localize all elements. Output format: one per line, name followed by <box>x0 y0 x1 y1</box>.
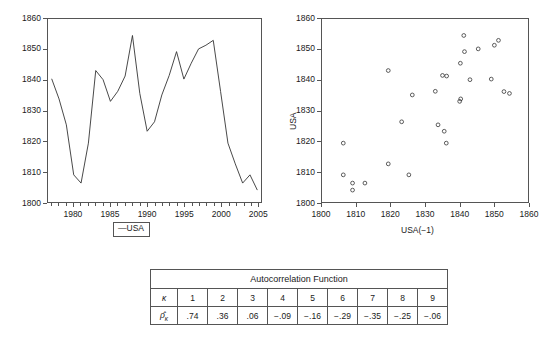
line-y-tick <box>43 18 47 19</box>
line-x-tick-minor <box>95 203 96 206</box>
scatter-point <box>351 181 355 185</box>
acf-lag-cell: 8 <box>388 289 418 307</box>
line-x-tick-minor <box>66 203 67 206</box>
scatter-x-tick <box>390 203 391 207</box>
scatter-y-tick <box>317 80 321 81</box>
legend-line-marker: — <box>118 223 127 233</box>
line-x-tick-label: 2000 <box>207 210 235 219</box>
line-x-tick-minor <box>244 203 245 206</box>
acf-value-cell: −.06 <box>418 307 448 325</box>
scatter-point <box>492 43 496 47</box>
acf-row-label-rho-hat: ρ̂κ <box>151 307 178 325</box>
scatter-x-tick <box>460 203 461 207</box>
scatter-y-tick <box>317 172 321 173</box>
line-y-tick <box>43 80 47 81</box>
acf-value-cell: −.29 <box>328 307 358 325</box>
acf-value-cell: −.16 <box>298 307 328 325</box>
line-y-tick-label: 1810 <box>0 168 41 177</box>
scatter-point <box>386 69 390 73</box>
scatter-point <box>489 77 493 81</box>
scatter-point <box>363 181 367 185</box>
line-x-tick-minor <box>117 203 118 206</box>
scatter-x-tick-label: 1810 <box>342 210 370 219</box>
line-x-tick-minor <box>58 203 59 206</box>
scatter-point <box>458 61 462 65</box>
scatter-x-tick-label: 1800 <box>307 210 335 219</box>
rho-hat-symbol: ρ̂ <box>160 310 165 320</box>
scatter-x-tick <box>494 203 495 207</box>
table-row-values: ρ̂κ .74.36.06−.09−.16−.29−.35−.25−.06 <box>151 307 448 325</box>
line-y-tick-label: 1850 <box>0 44 41 53</box>
acf-value-cell: .06 <box>238 307 268 325</box>
scatter-y-tick <box>317 111 321 112</box>
scatter-point <box>468 78 472 82</box>
line-x-tick-minor <box>214 203 215 206</box>
acf-lag-cell: 2 <box>208 289 238 307</box>
scatter-y-tick-label: 1800 <box>276 199 315 208</box>
scatter-y-tick-label: 1810 <box>276 168 315 177</box>
legend-label: USA <box>127 223 144 233</box>
scatter-points-svg <box>322 19 528 202</box>
scatter-x-tick-label: 1820 <box>376 210 404 219</box>
acf-value-cell: −.09 <box>268 307 298 325</box>
acf-lag-cell: 7 <box>358 289 388 307</box>
autocorrelation-function-table: Autocorrelation Function κ 123456789 ρ̂κ… <box>150 269 448 325</box>
acf-table: Autocorrelation Function κ 123456789 ρ̂κ… <box>150 269 448 325</box>
line-x-tick-major <box>184 203 185 207</box>
acf-lag-cell: 1 <box>178 289 208 307</box>
line-x-tick-minor <box>177 203 178 206</box>
acf-value-cell: −.25 <box>388 307 418 325</box>
acf-lag-cell: 9 <box>418 289 448 307</box>
line-y-tick-label: 1800 <box>0 199 41 208</box>
scatter-point <box>476 47 480 51</box>
rho-hat-subscript: κ <box>165 314 168 321</box>
line-y-tick-label: 1840 <box>0 75 41 84</box>
line-y-tick <box>43 111 47 112</box>
line-x-tick-minor <box>103 203 104 206</box>
line-x-tick-major <box>73 203 74 207</box>
line-x-tick-minor <box>206 203 207 206</box>
acf-row-label-kappa: κ <box>151 289 178 307</box>
scatter-x-tick <box>356 203 357 207</box>
scatter-point <box>462 34 466 38</box>
scatter-point <box>442 129 446 133</box>
scatter-point <box>445 74 449 78</box>
line-x-tick-minor <box>192 203 193 206</box>
acf-value-cell: .36 <box>208 307 238 325</box>
scatter-x-tick <box>321 203 322 207</box>
line-x-tick-minor <box>140 203 141 206</box>
line-x-tick-minor <box>251 203 252 206</box>
scatter-point <box>400 120 404 124</box>
scatter-point <box>497 38 501 42</box>
acf-lag-cell: 6 <box>328 289 358 307</box>
acf-lag-cell: 4 <box>268 289 298 307</box>
usa-time-series-chart: 1860185018401830182018101800 19801985199… <box>0 0 276 255</box>
scatter-y-tick-label: 1860 <box>276 14 315 23</box>
acf-value-cell: .74 <box>178 307 208 325</box>
line-y-tick <box>43 141 47 142</box>
scatter-x-tick-label: 1860 <box>515 210 543 219</box>
scatter-point <box>351 188 355 192</box>
scatter-point <box>410 93 414 97</box>
scatter-point <box>502 90 506 94</box>
scatter-y-tick <box>317 18 321 19</box>
acf-lag-cell: 3 <box>238 289 268 307</box>
scatter-point <box>386 162 390 166</box>
legend-usa: —USA <box>113 222 150 237</box>
scatter-point <box>444 141 448 145</box>
scatter-plot-area <box>321 18 529 203</box>
usa-lag-scatter-chart: 1860185018401830182018101800 18001810182… <box>276 0 552 255</box>
scatter-point <box>441 74 445 78</box>
line-x-tick-label: 1980 <box>59 210 87 219</box>
line-x-tick-minor <box>132 203 133 206</box>
line-x-tick-label: 1990 <box>133 210 161 219</box>
line-y-tick <box>43 172 47 173</box>
line-x-tick-minor <box>236 203 237 206</box>
line-x-tick-major <box>110 203 111 207</box>
line-chart-plot-area <box>47 18 262 203</box>
table-row-lags: κ 123456789 <box>151 289 448 307</box>
line-chart-series-svg <box>48 19 261 202</box>
usa-line-path <box>52 35 258 190</box>
scatter-y-tick <box>317 49 321 50</box>
scatter-point <box>341 141 345 145</box>
